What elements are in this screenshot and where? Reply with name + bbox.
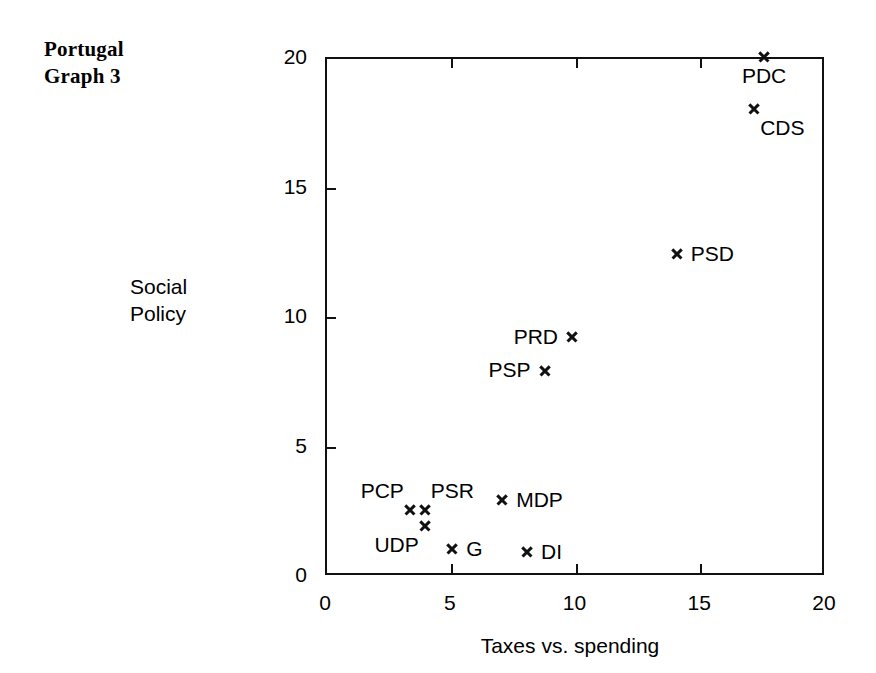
page-title-line-2: Graph 3 — [44, 63, 124, 90]
data-point-label-pcp: PCP — [361, 480, 404, 501]
data-point-pcp[interactable] — [403, 504, 416, 517]
y-axis-tick-15 — [327, 188, 336, 190]
data-point-label-prd: PRD — [514, 326, 558, 347]
data-point-psp[interactable] — [538, 364, 551, 377]
x-axis-tick-10 — [576, 564, 578, 573]
page-title: Portugal Graph 3 — [44, 36, 124, 90]
data-point-di[interactable] — [521, 545, 534, 558]
x-axis-tick-top-15 — [700, 59, 702, 68]
y-axis-tick-label-20: 20 — [259, 45, 307, 69]
data-point-label-cds: CDS — [760, 117, 804, 138]
y-axis-tick-10 — [327, 317, 336, 319]
data-point-mdp[interactable] — [496, 493, 509, 506]
data-point-psr[interactable] — [418, 504, 431, 517]
page-title-line-1: Portugal — [44, 36, 124, 63]
y-axis-tick-label-15: 15 — [259, 175, 307, 199]
data-point-label-mdp: MDP — [516, 489, 563, 510]
y-axis-tick-5 — [327, 447, 336, 449]
data-point-label-g: G — [466, 538, 482, 559]
data-point-cds[interactable] — [748, 102, 761, 115]
chart-page: Portugal Graph 3 Social Policy Taxes vs.… — [0, 0, 876, 673]
x-axis-tick-label-15: 15 — [688, 591, 711, 615]
x-axis-title: Taxes vs. spending — [0, 634, 876, 658]
y-axis-tick-label-5: 5 — [259, 434, 307, 458]
y-axis-title: Social Policy — [130, 273, 187, 327]
data-point-psd[interactable] — [670, 247, 683, 260]
y-axis-tick-label-10: 10 — [259, 304, 307, 328]
data-point-label-pdc: PDC — [742, 65, 786, 86]
data-point-label-di: DI — [541, 541, 562, 562]
data-point-label-psr: PSR — [431, 480, 474, 501]
data-point-pdc[interactable] — [758, 51, 771, 64]
x-axis-tick-label-0: 0 — [319, 591, 331, 615]
data-point-prd[interactable] — [566, 330, 579, 343]
data-point-label-udp: UDP — [374, 534, 418, 555]
x-axis-tick-label-5: 5 — [444, 591, 456, 615]
x-axis-tick-5 — [451, 564, 453, 573]
data-point-label-psd: PSD — [691, 243, 734, 264]
x-axis-tick-top-5 — [451, 59, 453, 68]
data-point-g[interactable] — [446, 543, 459, 556]
x-axis-tick-15 — [700, 564, 702, 573]
y-axis-title-line-1: Social — [130, 273, 187, 300]
y-axis-tick-label-0: 0 — [259, 563, 307, 587]
x-axis-tick-top-10 — [576, 59, 578, 68]
x-axis-title-text: Taxes vs. spending — [481, 634, 660, 657]
y-axis-title-line-2: Policy — [130, 300, 187, 327]
data-point-label-psp: PSP — [489, 359, 531, 380]
x-axis-tick-label-10: 10 — [563, 591, 586, 615]
data-point-udp[interactable] — [418, 519, 431, 532]
x-axis-tick-label-20: 20 — [812, 591, 835, 615]
